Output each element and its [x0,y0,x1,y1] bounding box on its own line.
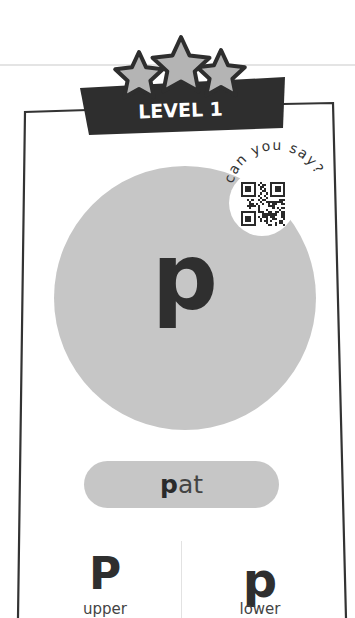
main-letter: p [54,232,316,324]
can-you-say-caption: can you say? [215,132,355,242]
example-word: pat [84,461,279,508]
word-highlight: p [160,470,178,499]
level-label: LEVEL 1 [118,97,244,123]
word-rest: at [178,470,203,499]
svg-text:can you say?: can you say? [220,137,327,185]
lowercase-letter: p [200,556,320,604]
lowercase-label: lower [200,600,320,618]
case-divider [181,541,182,618]
uppercase-label: upper [45,600,165,618]
caption-text: can you say? [220,137,327,185]
uppercase-letter: P [45,552,165,596]
